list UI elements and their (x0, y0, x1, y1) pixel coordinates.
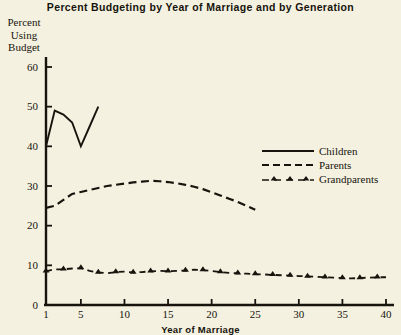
series-marker-triangle (200, 266, 207, 271)
series-marker-triangle (234, 269, 241, 274)
y-axis-tick-label: 60 (12, 62, 38, 73)
series-marker-triangle (165, 267, 172, 272)
x-axis-tick-label: 10 (112, 309, 136, 320)
series-marker-triangle (112, 268, 119, 273)
legend-swatch-dashed-line (262, 159, 314, 171)
series-marker-triangle (95, 269, 102, 274)
x-axis-tick-label: 30 (287, 309, 311, 320)
legend-item-grandparents: Grandparents (262, 172, 378, 186)
legend-swatch-solid-line (262, 145, 314, 157)
x-axis-tick-label: 20 (200, 309, 224, 320)
x-axis-tick-label: 15 (156, 309, 180, 320)
legend-label-parents: Parents (319, 158, 351, 172)
y-axis-tick-label: 20 (12, 220, 38, 231)
series-marker-triangle (217, 268, 224, 273)
y-axis-tick-label: 50 (12, 101, 38, 112)
x-axis-tick-label: 1 (34, 309, 58, 320)
y-axis-tick-label: 40 (12, 141, 38, 152)
x-axis-tick-label: 35 (330, 309, 354, 320)
legend-label-grandparents: Grandparents (319, 172, 378, 186)
series-line-children (46, 107, 98, 147)
series-line-parents (46, 181, 255, 210)
series-marker-triangle (356, 274, 363, 279)
x-axis-tick-label: 25 (243, 309, 267, 320)
x-axis-title: Year of Marriage (0, 324, 401, 335)
series-marker-triangle (147, 267, 154, 272)
series-marker-triangle (374, 273, 381, 278)
series-marker-triangle (252, 270, 259, 275)
legend-item-parents: Parents (262, 158, 378, 172)
series-marker-triangle (269, 271, 276, 276)
chart-figure: Percent Budgeting by Year of Marriage an… (0, 0, 401, 335)
series-marker-triangle (130, 269, 137, 274)
chart-legend: Children Parents Grandparents (262, 144, 378, 186)
series-marker-triangle (304, 273, 311, 278)
series-marker-triangle (287, 272, 294, 277)
series-marker-triangle (182, 267, 189, 272)
legend-label-children: Children (319, 144, 358, 158)
series-marker-triangle (77, 264, 84, 269)
x-axis-tick-label: 5 (69, 309, 93, 320)
legend-item-children: Children (262, 144, 378, 158)
legend-swatch-dashdot-triangle-line (262, 173, 314, 185)
y-axis-tick-label: 30 (12, 181, 38, 192)
x-axis-tick-label: 40 (374, 309, 398, 320)
series-marker-triangle (339, 274, 346, 279)
series-marker-triangle (322, 273, 329, 278)
y-axis-tick-label: 10 (12, 260, 38, 271)
series-marker-triangle (60, 266, 67, 271)
